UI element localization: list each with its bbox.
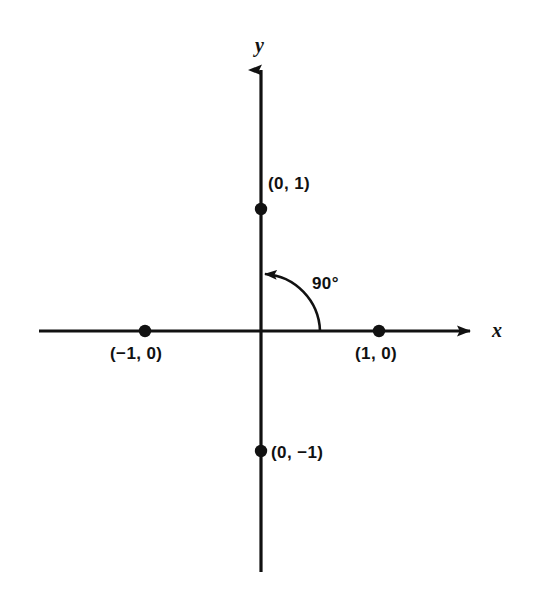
y-axis-label: y bbox=[253, 34, 264, 57]
point-0-neg1-dot bbox=[255, 445, 267, 457]
point-1-0-label: (1, 0) bbox=[355, 344, 397, 363]
point-0-1-label: (0, 1) bbox=[268, 174, 310, 193]
point-neg1-0-dot bbox=[139, 325, 151, 337]
point-0-1-dot bbox=[255, 203, 267, 215]
coordinate-plane-figure: x y 90° (0, 1) (1, 0) (−1, 0) (0, −1) bbox=[0, 0, 533, 597]
point-neg1-0-label: (−1, 0) bbox=[110, 344, 162, 363]
point-1-0-dot bbox=[373, 325, 385, 337]
x-axis-label: x bbox=[491, 319, 502, 341]
point-0-neg1-label: (0, −1) bbox=[271, 443, 323, 462]
coordinate-plane-svg: x y 90° (0, 1) (1, 0) (−1, 0) (0, −1) bbox=[0, 0, 533, 597]
angle-label: 90° bbox=[312, 274, 339, 293]
